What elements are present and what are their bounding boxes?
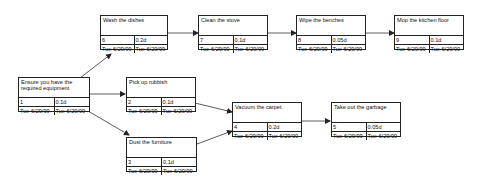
task-finish: Tue 6/29/99 [134, 45, 168, 53]
arrow-2-to-4 [195, 103, 232, 112]
task-duration: 0.2d [134, 36, 168, 44]
task-id: 6 [101, 36, 134, 44]
task-node-4[interactable]: Vacuum the carpet 4 0.2d Tue 6/29/99 Tue… [232, 102, 302, 137]
task-node-8[interactable]: Wipe the benches 8 0.05d Tue 6/29/99 Tue… [296, 15, 366, 50]
task-id: 1 [19, 98, 54, 106]
task-finish: Tue 6/29/99 [429, 45, 464, 53]
task-node-3[interactable]: Dust the furniture 3 0.1d Tue 6/29/99 Tu… [126, 137, 197, 172]
task-start: Tue 6/29/99 [199, 45, 233, 53]
task-id: 3 [127, 158, 161, 166]
task-finish: Tue 6/29/99 [233, 45, 268, 53]
task-finish: Tue 6/29/99 [366, 132, 401, 140]
task-duration: 0.2d [267, 123, 302, 131]
task-duration: 0.1d [429, 36, 464, 44]
task-id: 9 [395, 36, 429, 44]
task-title: Clean the stove [199, 16, 267, 36]
task-node-7[interactable]: Clean the stove 7 0.1d Tue 6/29/99 Tue 6… [198, 15, 268, 50]
task-title: Wash the dishes [101, 16, 167, 36]
task-start: Tue 6/29/99 [297, 45, 331, 53]
task-duration: 0.05d [366, 123, 401, 131]
task-id: 7 [199, 36, 233, 44]
task-start: Tue 6/29/99 [101, 45, 134, 53]
task-finish: Tue 6/29/99 [161, 107, 196, 115]
task-title: Dust the furniture [127, 138, 196, 158]
task-node-9[interactable]: Mop the kitchen floor 9 0.1d Tue 6/29/99… [394, 15, 464, 50]
task-title: Take out the garbage [332, 103, 400, 123]
task-start: Tue 6/29/99 [127, 107, 161, 115]
network-diagram: Wash the dishes 6 0.2d Tue 6/29/99 Tue 6… [0, 0, 482, 185]
task-duration: 0.1d [54, 98, 90, 106]
arrow-3-to-4 [197, 131, 232, 144]
task-node-2[interactable]: Pick up rubbish 2 0.1d Tue 6/29/99 Tue 6… [126, 77, 196, 112]
task-duration: 0.1d [161, 158, 196, 166]
task-finish: Tue 6/29/99 [161, 167, 196, 175]
task-finish: Tue 6/29/99 [54, 107, 90, 115]
task-start: Tue 6/29/99 [395, 45, 429, 53]
task-start: Tue 6/29/99 [332, 132, 366, 140]
task-title: Mop the kitchen floor [395, 16, 463, 36]
task-title: Pick up rubbish [127, 78, 195, 98]
task-title: Vacuum the carpet [233, 103, 301, 123]
task-duration: 0.1d [161, 98, 196, 106]
task-duration: 0.1d [233, 36, 268, 44]
task-node-5[interactable]: Take out the garbage 5 0.05d Tue 6/29/99… [331, 102, 401, 137]
task-start: Tue 6/29/99 [233, 132, 267, 140]
task-id: 2 [127, 98, 161, 106]
task-duration: 0.05d [331, 36, 366, 44]
task-start: Tue 6/29/99 [127, 167, 161, 175]
task-start: Tue 6/29/99 [19, 107, 54, 115]
task-id: 4 [233, 123, 267, 131]
task-id: 8 [297, 36, 331, 44]
task-finish: Tue 6/29/99 [331, 45, 366, 53]
task-title: Wipe the benches [297, 16, 365, 36]
task-id: 5 [332, 123, 366, 131]
arrow-1-to-6 [80, 54, 111, 78]
task-finish: Tue 6/29/99 [267, 132, 302, 140]
task-node-1[interactable]: Ensure you have the required equipment 1… [18, 77, 90, 112]
arrow-1-to-3 [88, 111, 129, 135]
task-title: Ensure you have the required equipment [19, 78, 89, 98]
task-node-6[interactable]: Wash the dishes 6 0.2d Tue 6/29/99 Tue 6… [100, 15, 168, 50]
